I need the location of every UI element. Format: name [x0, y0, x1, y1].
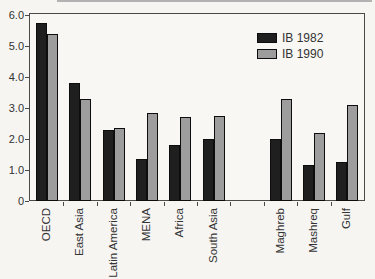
- bar-ib-1982-gulf: [336, 162, 347, 201]
- x-category-label-gulf: Gulf: [340, 208, 353, 229]
- legend-item-ib-1982: IB 1982: [257, 32, 323, 44]
- bar-ib-1982-latin-america: [103, 130, 114, 201]
- x-category-label-oecd: OECD: [40, 208, 53, 241]
- bar-ib-1982-maghreb: [270, 139, 281, 201]
- bar-ib-1990-oecd: [47, 34, 58, 201]
- legend-swatch-ib-1982: [257, 33, 277, 43]
- legend-label-ib-1982: IB 1982: [282, 32, 323, 44]
- x-category-label-east-asia: East Asia: [73, 208, 86, 256]
- y-axis-tick: [25, 15, 29, 16]
- y-axis-tick: [25, 46, 29, 47]
- y-axis-tick: [25, 201, 29, 202]
- bar-ib-1982-east-asia: [69, 83, 80, 201]
- y-axis-tick: [25, 139, 29, 140]
- legend: IB 1982 IB 1990: [257, 32, 323, 60]
- x-axis-tick: [97, 202, 98, 206]
- bar-ib-1990-africa: [180, 117, 191, 201]
- x-axis-tick: [264, 202, 265, 206]
- legend-swatch-ib-1990: [257, 49, 277, 59]
- bar-ib-1982-africa: [169, 145, 180, 201]
- bar-ib-1982-mashreq: [303, 165, 314, 201]
- bar-ib-1982-mena: [136, 159, 147, 201]
- x-axis-tick: [130, 202, 131, 206]
- x-category-label-maghreb: Maghreb: [274, 208, 287, 253]
- bar-ib-1990-east-asia: [80, 99, 91, 201]
- bar-ib-1982-south-asia: [203, 139, 214, 201]
- bar-ib-1990-latin-america: [114, 128, 125, 201]
- x-axis-tick: [297, 202, 298, 206]
- y-axis-label: 0: [0, 194, 24, 208]
- y-axis-label: 4.0: [0, 70, 24, 84]
- x-category-label-mashreq: Mashreq: [307, 208, 320, 253]
- x-category-label-africa: Africa: [173, 208, 186, 237]
- y-axis-label: 5.0: [0, 39, 24, 53]
- bar-ib-1990-maghreb: [281, 99, 292, 201]
- bar-ib-1990-south-asia: [214, 116, 225, 201]
- cropped-title-rule: [57, 0, 372, 2]
- legend-item-ib-1990: IB 1990: [257, 48, 323, 60]
- bar-ib-1990-mena: [147, 113, 158, 201]
- x-axis-tick: [164, 202, 165, 206]
- y-axis-tick: [25, 77, 29, 78]
- x-axis-tick: [331, 202, 332, 206]
- x-axis-tick: [63, 202, 64, 206]
- y-axis-tick: [25, 170, 29, 171]
- y-axis-label: 3.0: [0, 101, 24, 115]
- y-axis-label: 2.0: [0, 132, 24, 146]
- x-category-label-south-asia: South Asia: [207, 208, 220, 263]
- x-axis-tick: [197, 202, 198, 206]
- x-category-label-mena: MENA: [140, 208, 153, 241]
- bar-ib-1982-oecd: [36, 23, 47, 201]
- x-axis-tick: [230, 202, 231, 206]
- bar-ib-1990-gulf: [347, 105, 358, 201]
- y-axis-label: 1.0: [0, 163, 24, 177]
- y-axis-label: 6.0: [0, 8, 24, 22]
- y-axis-tick: [25, 108, 29, 109]
- bar-ib-1990-mashreq: [314, 133, 325, 201]
- legend-label-ib-1990: IB 1990: [282, 48, 323, 60]
- x-category-label-latin-america: Latin America: [107, 208, 120, 278]
